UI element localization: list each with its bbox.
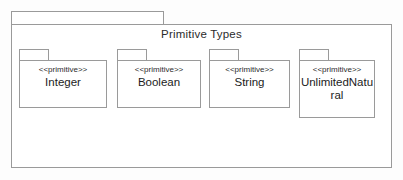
primitive-name-label: UnlimitedNatural bbox=[300, 76, 374, 102]
primitive-name-label: String bbox=[210, 76, 289, 89]
uml-diagram-canvas: Primitive Types <<primitive>>Integer<<pr… bbox=[0, 0, 403, 180]
primitive-stereotype-label: <<primitive>> bbox=[118, 65, 200, 75]
package-title: Primitive Types bbox=[11, 28, 392, 40]
primitive-node-body: <<primitive>>Boolean bbox=[117, 60, 201, 108]
primitive-name-label: Boolean bbox=[118, 76, 200, 89]
primitive-node-tab bbox=[299, 49, 329, 60]
primitive-node-body: <<primitive>>String bbox=[209, 60, 290, 108]
primitive-name-label: Integer bbox=[20, 76, 106, 89]
primitive-node-tab bbox=[19, 49, 49, 60]
primitive-node-body: <<primitive>>Integer bbox=[19, 60, 107, 108]
package-tab bbox=[11, 11, 164, 24]
primitive-stereotype-label: <<primitive>> bbox=[210, 65, 289, 75]
primitive-node-tab bbox=[117, 49, 147, 60]
primitive-node-body: <<primitive>>UnlimitedNatural bbox=[299, 60, 375, 118]
primitive-stereotype-label: <<primitive>> bbox=[20, 65, 106, 75]
primitive-node-tab bbox=[209, 49, 239, 60]
primitive-stereotype-label: <<primitive>> bbox=[300, 65, 374, 75]
